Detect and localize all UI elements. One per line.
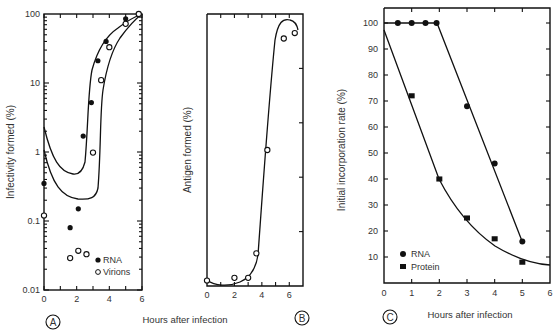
data-point xyxy=(281,36,286,41)
data-point xyxy=(41,181,46,186)
data-point xyxy=(519,260,525,265)
x-tick-label: 4 xyxy=(492,288,497,298)
panel-a-data-points xyxy=(41,11,141,260)
y-tick-label: 10 xyxy=(30,78,40,88)
panel-c-rna-line xyxy=(384,23,522,241)
panel-b-frame xyxy=(207,14,303,286)
data-point xyxy=(89,100,94,105)
panel-c-y-tick-labels: 102030405060708090100 xyxy=(363,18,378,262)
data-point xyxy=(265,147,270,152)
panel-a-y-axis-label: Infectivity formed (%) xyxy=(5,105,16,199)
panel-a-infectivity-chart: 0.010.1110100 0246 Infectivity formed (%… xyxy=(5,9,145,329)
legend-rna-marker-icon xyxy=(400,251,406,257)
data-point xyxy=(395,20,401,26)
y-tick-label: 0.1 xyxy=(27,216,40,226)
y-tick-label: 70 xyxy=(368,96,378,106)
data-point xyxy=(492,236,498,241)
data-point xyxy=(464,215,470,220)
panel-c-x-tick-labels: 0123456 xyxy=(381,288,552,298)
panel-b-x-tick-labels: 0246 xyxy=(204,290,291,300)
legend-virions-label: Virions xyxy=(103,267,131,277)
y-tick-label: 10 xyxy=(368,252,378,262)
data-point xyxy=(81,133,86,138)
data-point xyxy=(107,45,112,50)
x-tick-label: 4 xyxy=(259,290,264,300)
legend-c-protein-label: Protein xyxy=(411,262,440,272)
panel-c-legend: RNA Protein xyxy=(400,249,440,272)
panel-a-y-tick-labels: 0.010.1110100 xyxy=(22,9,40,295)
data-point xyxy=(68,225,73,230)
y-tick-label: 40 xyxy=(368,174,378,184)
x-tick-label: 1 xyxy=(409,288,414,298)
data-point xyxy=(76,206,81,211)
panel-ab-x-axis-label: Hours after infection xyxy=(142,314,227,325)
x-tick-label: 2 xyxy=(232,290,237,300)
data-point xyxy=(136,11,141,16)
x-tick-label: 0 xyxy=(381,288,386,298)
panel-b-ticks xyxy=(221,14,303,286)
data-point xyxy=(434,20,440,26)
data-point xyxy=(90,150,95,155)
x-tick-label: 2 xyxy=(437,288,442,298)
panel-b-letter-badge: B xyxy=(295,311,309,325)
panel-a-letter-badge: A xyxy=(46,315,60,329)
panel-b-letter: B xyxy=(299,313,306,324)
x-tick-label: 5 xyxy=(520,288,525,298)
panel-c-x-axis-label: Hours after infection xyxy=(427,309,512,320)
panel-c-letter-badge: C xyxy=(383,310,397,324)
data-point xyxy=(423,20,429,26)
y-tick-label: 30 xyxy=(368,200,378,210)
data-point xyxy=(246,275,251,280)
x-tick-label: 6 xyxy=(139,294,144,304)
y-tick-label: 0.01 xyxy=(22,285,40,295)
panel-b-antigen-curve xyxy=(207,20,298,286)
data-point xyxy=(103,39,108,44)
data-point xyxy=(436,176,442,181)
legend-virions-marker-icon xyxy=(96,270,101,275)
legend-protein-marker-icon xyxy=(400,264,406,269)
y-tick-label: 100 xyxy=(25,9,40,19)
panel-c-letter: C xyxy=(386,312,393,323)
data-point xyxy=(95,58,100,63)
panel-a-letter: A xyxy=(50,317,57,328)
y-tick-label: 1 xyxy=(35,147,40,157)
panel-c-data-points xyxy=(395,20,525,265)
panel-a-x-tick-labels: 0246 xyxy=(41,294,144,304)
data-point xyxy=(41,213,46,218)
x-tick-label: 0 xyxy=(41,294,46,304)
data-point xyxy=(204,278,209,283)
panel-c-y-axis-label: Initial incorporation rate (%) xyxy=(336,89,347,211)
data-point xyxy=(232,275,237,280)
figure: 0.010.1110100 0246 Infectivity formed (%… xyxy=(0,0,554,332)
x-tick-label: 3 xyxy=(464,288,469,298)
panel-a-legend: RNA Virions xyxy=(95,255,130,277)
x-tick-label: 6 xyxy=(287,290,292,300)
panel-b-antigen-chart: 0246 Antigen formed (%) B xyxy=(182,14,309,325)
data-point xyxy=(409,93,415,98)
data-point xyxy=(123,21,128,26)
data-point xyxy=(492,160,498,166)
data-point xyxy=(84,252,89,257)
x-tick-label: 4 xyxy=(107,294,112,304)
y-tick-label: 60 xyxy=(368,122,378,132)
legend-rna-label: RNA xyxy=(103,255,122,265)
panel-c-protein-curve xyxy=(384,30,550,265)
data-point xyxy=(519,238,525,244)
x-tick-label: 6 xyxy=(547,288,552,298)
data-point xyxy=(409,20,415,26)
data-point xyxy=(123,16,128,21)
panel-b-y-axis-label: Antigen formed (%) xyxy=(182,107,193,193)
data-point xyxy=(76,248,81,253)
panel-b-data-points xyxy=(204,30,297,283)
data-point xyxy=(68,255,73,260)
y-tick-label: 50 xyxy=(368,148,378,158)
y-tick-label: 80 xyxy=(368,70,378,80)
y-tick-label: 100 xyxy=(363,18,378,28)
y-tick-label: 20 xyxy=(368,226,378,236)
data-point xyxy=(99,78,104,83)
panel-a-virions-curve xyxy=(44,14,142,199)
x-tick-label: 0 xyxy=(204,290,209,300)
x-tick-label: 2 xyxy=(74,294,79,304)
data-point xyxy=(254,251,259,256)
data-point xyxy=(464,103,470,109)
